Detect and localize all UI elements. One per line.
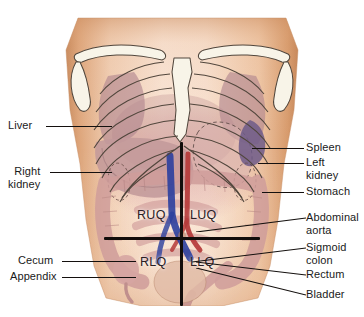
label-cecum-text: Cecum [18,254,53,266]
leader-liver [46,126,112,127]
leader-bladder [196,268,306,300]
label-left-kidney-text: Left [306,156,325,168]
label-stomach: Stomach [306,185,350,198]
leader-left-kidney [258,163,304,164]
label-sigmoid-colon-text: Sigmoid [306,241,346,253]
label-cecum: Cecum [18,254,53,267]
leader-stomach [262,192,304,193]
label-right-kidney-text: Right [14,165,40,177]
label-stomach-text: Stomach [306,185,350,197]
label-bladder-text: Bladder [306,288,345,300]
label-rectum: Rectum [306,268,345,281]
label-spleen: Spleen [306,141,341,154]
quadrant-vertical-line [180,142,183,306]
label-liver-text: Liver [8,119,32,131]
leader-right-kidney [50,172,112,173]
leader-spleen [252,148,304,149]
label-left-kidney-text2: kidney [306,169,338,182]
leader-appendix [62,277,136,278]
label-right-kidney-text2: kidney [8,178,40,191]
label-abdominal-aorta-text: Abdominal [306,211,359,223]
quadrant-label-ruq: RUQ [137,208,166,222]
label-spleen-text: Spleen [306,141,341,153]
label-liver: Liver [8,119,32,132]
label-appendix: Appendix [10,270,57,283]
anatomy-figure: RUQ LUQ RLQ LLQ Liver Right kidney Cecum… [0,0,364,317]
leader-cecum [62,261,136,262]
label-appendix-text: Appendix [10,270,57,282]
label-sigmoid-colon: Sigmoid colon [306,241,346,266]
quadrant-label-rlq: RLQ [140,255,167,269]
label-rectum-text: Rectum [306,268,345,280]
label-abdominal-aorta-text2: aorta [306,224,359,237]
label-abdominal-aorta: Abdominal aorta [306,211,359,236]
label-sigmoid-colon-text2: colon [306,254,346,267]
leader-abdominal-aorta [196,206,306,232]
label-left-kidney: Left kidney [306,156,338,181]
label-bladder: Bladder [306,288,345,301]
label-right-kidney: Right kidney [8,165,40,190]
